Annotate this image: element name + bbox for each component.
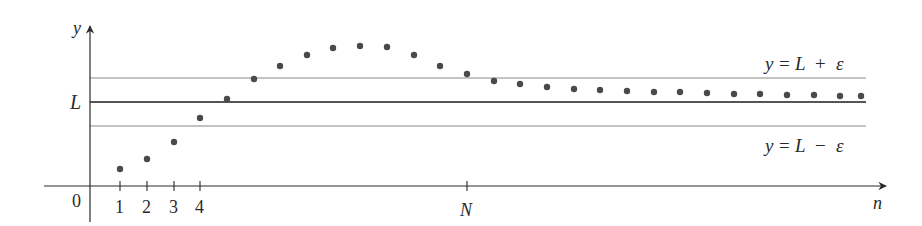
sequence-point-4	[197, 115, 203, 121]
sequence-point-25	[757, 91, 763, 97]
sequence-point-8	[304, 52, 310, 58]
sequence-point-12	[411, 52, 417, 58]
sequence-point-7	[277, 63, 283, 69]
sequence-point-6	[251, 76, 257, 82]
svg-text:−: −	[815, 135, 826, 156]
tick-label-3: 3	[169, 197, 178, 217]
sequence-point-19	[597, 87, 603, 93]
sequence-point-21	[651, 89, 657, 95]
sequence-point-23	[704, 90, 710, 96]
sequence-point-3	[171, 139, 177, 145]
upper-band-label: y = L + ε	[763, 53, 844, 74]
sequence-point-2	[144, 156, 150, 162]
lower-band-label: y = L − ε	[763, 135, 844, 156]
svg-text:L: L	[794, 53, 806, 74]
svg-text:+: +	[815, 53, 826, 74]
sequence-point-13	[437, 63, 443, 69]
tick-label-1: 1	[115, 197, 124, 217]
sequence-point-14	[464, 71, 470, 77]
sequence-point-11	[384, 44, 390, 50]
svg-text:y: y	[763, 135, 774, 156]
sequence-points	[117, 43, 864, 172]
sequence-point-28	[837, 93, 843, 99]
sequence-point-9	[330, 45, 336, 51]
svg-text:y: y	[763, 53, 774, 74]
origin-label: 0	[72, 191, 81, 211]
sequence-point-5	[224, 96, 230, 102]
sequence-point-10	[357, 43, 363, 49]
limit-L-label: L	[69, 91, 81, 113]
sequence-point-18	[571, 86, 577, 92]
sequence-point-16	[517, 81, 523, 87]
sequence-limit-diagram: y n 0 L 1 2 3 4 N y = L + ε y = L − ε	[0, 0, 922, 226]
tick-label-N: N	[459, 200, 473, 220]
sequence-point-26	[784, 92, 790, 98]
x-axis-label: n	[873, 193, 882, 213]
sequence-point-27	[811, 92, 817, 98]
svg-text:ε: ε	[836, 135, 844, 156]
tick-label-2: 2	[142, 197, 151, 217]
svg-text:=: =	[779, 135, 790, 156]
sequence-point-17	[544, 84, 550, 90]
tick-label-4: 4	[195, 197, 204, 217]
svg-text:L: L	[794, 135, 806, 156]
sequence-point-29	[858, 93, 864, 99]
sequence-point-22	[677, 89, 683, 95]
sequence-point-24	[731, 91, 737, 97]
svg-text:ε: ε	[836, 53, 844, 74]
sequence-point-15	[491, 78, 497, 84]
svg-text:=: =	[779, 53, 790, 74]
sequence-point-1	[117, 166, 123, 172]
sequence-point-20	[624, 88, 630, 94]
y-axis-label: y	[71, 18, 81, 38]
